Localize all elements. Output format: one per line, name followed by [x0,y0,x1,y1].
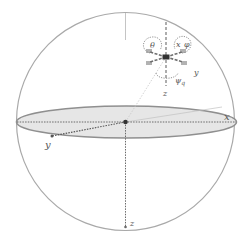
sphere-frame-diagram: x y z θ x φ y ψq z [0,0,249,244]
body-x-label: x [176,40,181,49]
world-y-label: y [44,139,51,150]
body-roll-label: θ [150,41,155,50]
world-x-label: x [224,111,230,122]
body-center [163,55,170,60]
body-z-label: z [162,89,168,98]
world-z-label: z [129,219,135,228]
y-axis-endpoint [51,135,54,138]
body-yaw-label: ψq [175,76,185,87]
z-axis-endpoint [124,226,127,229]
body-y-label: y [193,68,199,77]
origin-point [123,120,128,125]
body-pitch-label: φ [184,40,190,49]
